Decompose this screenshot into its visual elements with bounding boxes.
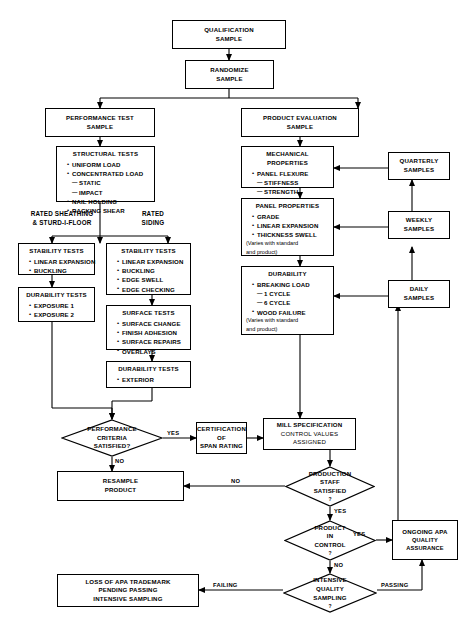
list-item: PANEL FLEXURE xyxy=(252,169,329,178)
list-item: BUCKLING xyxy=(29,266,90,275)
list-item: 1 CYCLE xyxy=(252,289,329,298)
node-panel-properties[interactable]: PANEL PROPERTIES GRADE LINEAR EXPANSION … xyxy=(241,198,334,256)
list-item: FINISH ADHESION xyxy=(117,328,186,337)
list-item: LINEAR EXPANSION xyxy=(252,221,329,230)
node-label-line2: SAMPLE xyxy=(87,123,113,132)
list-item: WOOD FAILURE xyxy=(252,308,329,317)
node-resample-product[interactable]: RESAMPLE PRODUCT xyxy=(57,471,184,501)
edge-label-yes-production: YES xyxy=(334,508,346,514)
branch-label-line2: SIDING xyxy=(123,218,183,227)
node-label-line3: INTENSIVE SAMPLING xyxy=(93,595,162,604)
edge-label-failing: FAILING xyxy=(213,582,238,588)
decision-production-staff[interactable]: PRODUCTION STAFF SATISFIED ? xyxy=(285,466,375,507)
node-label-line1: WEEKLY xyxy=(406,216,433,225)
list-item: NAIL HOLDING xyxy=(67,197,150,206)
box-header: STABILITY TESTS xyxy=(111,247,186,256)
box-header: DURABILITY TESTS xyxy=(111,365,186,374)
node-label-line1: LOSS OF APA TRADEMARK xyxy=(85,578,170,587)
node-label-line1: DAILY xyxy=(410,285,429,294)
box-item-list: GRADE LINEAR EXPANSION THICKNESS SWELL xyxy=(246,212,329,239)
list-item: EXTERIOR xyxy=(117,375,186,384)
node-label-line2: SAMPLE xyxy=(216,35,242,44)
box-note-line1: (Varies with standard xyxy=(246,240,329,248)
node-label-line1: QUARTERLY xyxy=(400,157,439,166)
node-label-line3: SPAN RATING xyxy=(200,442,243,451)
node-label-line1: PERFORMANCE TEST xyxy=(66,114,134,123)
list-item: EXPOSURE 1 xyxy=(29,301,90,310)
box-header: MECHANICAL PROPERTIES xyxy=(246,150,329,167)
node-label-line2: CONTROL VALUES xyxy=(281,430,338,439)
node-mechanical-properties[interactable]: MECHANICAL PROPERTIES PANEL FLEXURE STIF… xyxy=(241,146,334,188)
node-qualification-sample[interactable]: QUALIFICATION SAMPLE xyxy=(172,20,286,49)
node-structural-tests[interactable]: STRUCTURAL TESTS UNIFORM LOAD CONCENTRAT… xyxy=(56,146,155,202)
node-certification-span-rating[interactable]: CERTIFICATION OF SPAN RATING xyxy=(196,422,247,454)
node-durability[interactable]: DURABILITY BREAKING LOAD 1 CYCLE 6 CYCLE… xyxy=(241,266,334,335)
node-daily-samples[interactable]: DAILY SAMPLES xyxy=(388,280,450,308)
node-randomize-sample[interactable]: RANDOMIZE SAMPLE xyxy=(185,60,274,89)
list-item: CONCENTRATED LOAD xyxy=(67,169,150,178)
list-item: STRENGTH xyxy=(252,187,329,196)
list-item: UNIFORM LOAD xyxy=(67,160,150,169)
decision-intensive-quality-sampling[interactable]: INTENSIVE QUALITY SAMPLING ? xyxy=(283,573,377,613)
node-ongoing-apa-quality-assurance[interactable]: ONGOING APA QUALITY ASSURANCE xyxy=(392,520,458,560)
node-label-line3: ASSIGNED xyxy=(293,438,326,447)
box-item-list: LINEAR EXPANSION BUCKLING EDGE SWELL EDG… xyxy=(111,257,186,294)
list-item: LINEAR EXPANSION xyxy=(117,257,186,266)
box-header: DURABILITY xyxy=(246,270,329,279)
box-header: PANEL PROPERTIES xyxy=(246,202,329,211)
diamond-shape xyxy=(61,419,163,457)
branch-label-line1: RATED SHEATHING xyxy=(18,209,106,218)
node-performance-test-sample[interactable]: PERFORMANCE TEST SAMPLE xyxy=(45,108,155,137)
branch-label-line2: & STURD-I-FLOOR xyxy=(18,218,106,227)
node-label-line1: QUALIFICATION xyxy=(204,26,254,35)
node-quarterly-samples[interactable]: QUARTERLY SAMPLES xyxy=(388,152,450,180)
node-surface-tests[interactable]: SURFACE TESTS SURFACE CHANGE FINISH ADHE… xyxy=(106,305,191,350)
node-label-line2: SAMPLES xyxy=(404,225,435,234)
node-label-line1: RESAMPLE xyxy=(103,477,138,486)
node-loss-of-apa-trademark[interactable]: LOSS OF APA TRADEMARK PENDING PASSING IN… xyxy=(57,574,199,607)
box-note-line2: and product) xyxy=(246,326,329,334)
decision-performance-criteria[interactable]: PERFORMANCE CRITERIA SATISFIED? xyxy=(61,419,163,457)
box-header: SURFACE TESTS xyxy=(111,309,186,318)
list-item: LINEAR EXPANSION xyxy=(29,257,90,266)
box-item-list: EXPOSURE 1 EXPOSURE 2 xyxy=(23,301,90,319)
diamond-shape xyxy=(285,466,375,507)
branch-label-rated-siding: RATED SIDING xyxy=(123,209,183,228)
branch-label-line1: RATED xyxy=(123,209,183,218)
list-item: BUCKLING xyxy=(117,266,186,275)
node-label-line1: ONGOING APA xyxy=(402,528,447,537)
box-item-list: SURFACE CHANGE FINISH ADHESION SURFACE R… xyxy=(111,319,186,356)
node-durability-tests-right[interactable]: DURABILITY TESTS EXTERIOR xyxy=(106,361,191,388)
node-weekly-samples[interactable]: WEEKLY SAMPLES xyxy=(388,211,450,239)
node-label-line1: MILL SPECIFICATION xyxy=(277,421,343,430)
flowchart-canvas: QUALIFICATION SAMPLE RANDOMIZE SAMPLE PE… xyxy=(0,0,458,635)
node-label-line2: SAMPLES xyxy=(404,166,435,175)
list-item: EXPOSURE 2 xyxy=(29,310,90,319)
node-label-line2: SAMPLE xyxy=(287,123,313,132)
list-item: EDGE SWELL xyxy=(117,275,186,284)
node-label-line2: SAMPLE xyxy=(216,75,242,84)
box-note-line1: (Varies with standard xyxy=(246,317,329,325)
box-item-list: BREAKING LOAD 1 CYCLE 6 CYCLE WOOD FAILU… xyxy=(246,280,329,317)
node-durability-tests-left[interactable]: DURABILITY TESTS EXPOSURE 1 EXPOSURE 2 xyxy=(18,287,95,322)
list-item: 6 CYCLE xyxy=(252,298,329,307)
list-item: SURFACE REPAIRS xyxy=(117,337,186,346)
list-item: SURFACE CHANGE xyxy=(117,319,186,328)
list-item: STIFFNESS xyxy=(252,178,329,187)
edge-label-yes-control: YES xyxy=(353,531,365,537)
box-note-line2: and product) xyxy=(246,249,329,257)
box-header: STABILITY TESTS xyxy=(23,247,90,256)
box-item-list: LINEAR EXPANSION BUCKLING xyxy=(23,257,90,275)
box-item-list: UNIFORM LOAD CONCENTRATED LOAD STATIC IM… xyxy=(61,160,150,215)
node-product-evaluation-sample[interactable]: PRODUCT EVALUATION SAMPLE xyxy=(241,108,359,137)
node-stability-tests-right[interactable]: STABILITY TESTS LINEAR EXPANSION BUCKLIN… xyxy=(106,243,191,295)
edge-label-passing: PASSING xyxy=(381,582,408,588)
branch-label-rated-sheathing: RATED SHEATHING & STURD-I-FLOOR xyxy=(18,209,106,228)
edge-label-no-performance: NO xyxy=(115,458,124,464)
list-item: STATIC xyxy=(67,178,150,187)
decision-product-in-control[interactable]: PRODUCT IN CONTROL ? xyxy=(284,520,376,561)
node-stability-tests-left[interactable]: STABILITY TESTS LINEAR EXPANSION BUCKLIN… xyxy=(18,243,95,275)
edge-label-no-production: NO xyxy=(231,478,240,484)
node-label-line2: OF xyxy=(217,434,226,443)
node-mill-specification[interactable]: MILL SPECIFICATION CONTROL VALUES ASSIGN… xyxy=(263,418,356,450)
